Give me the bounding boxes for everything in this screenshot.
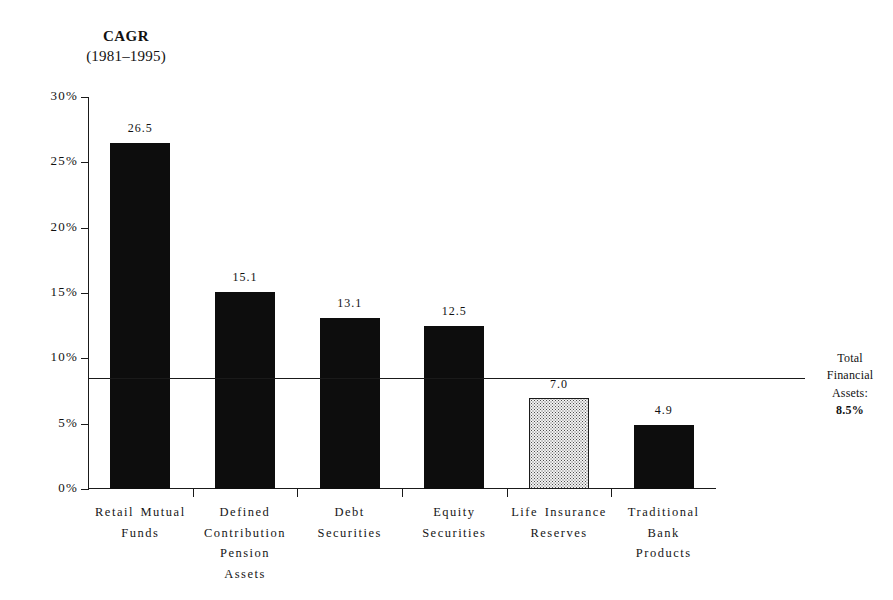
y-axis-tick-label: 20% xyxy=(51,219,78,235)
bar-value-label: 12.5 xyxy=(442,304,467,319)
y-axis-tick-label: 10% xyxy=(51,349,78,365)
reference-annotation-value: 8.5% xyxy=(812,402,888,419)
y-axis-tick-mark xyxy=(81,97,89,98)
bar-6: 4.9 xyxy=(634,425,694,489)
category-label-line: Reserves xyxy=(499,523,620,544)
bar-1: 26.5 xyxy=(110,143,170,489)
y-axis-tick-mark xyxy=(81,293,89,294)
x-axis-tick-mark xyxy=(297,489,298,497)
reference-annotation-line: Total xyxy=(812,350,888,367)
x-axis-tick-mark xyxy=(507,489,508,497)
category-label-line: Pension xyxy=(185,543,306,564)
bar-3: 13.1 xyxy=(320,318,380,489)
category-label-line: Defined xyxy=(185,502,306,523)
y-axis-tick-mark xyxy=(81,162,89,163)
bar-value-label: 13.1 xyxy=(337,296,362,311)
reference-annotation-line: Financial xyxy=(812,367,888,384)
y-axis-tick-label: 25% xyxy=(51,153,78,169)
reference-line-annotation: TotalFinancialAssets:8.5% xyxy=(812,350,888,420)
y-axis-tick-mark xyxy=(81,489,89,490)
plot-area: 0%5%10%15%20%25%30% 26.515.113.112.57.04… xyxy=(88,97,716,489)
bar-value-label: 15.1 xyxy=(233,270,258,285)
y-axis-tick-label: 15% xyxy=(51,284,78,300)
cagr-bar-chart: CAGR (1981–1995) 0%5%10%15%20%25%30% 26.… xyxy=(0,0,893,600)
y-axis-tick-mark xyxy=(81,424,89,425)
category-label-1: Retail MutualFunds xyxy=(80,502,201,543)
category-label-line: Bank xyxy=(603,523,724,544)
category-label-3: DebtSecurities xyxy=(289,502,410,543)
chart-title-block: CAGR (1981–1995) xyxy=(56,26,196,67)
category-label-5: Life InsuranceReserves xyxy=(499,502,620,543)
category-label-line: Assets xyxy=(185,564,306,585)
reference-line xyxy=(88,378,805,379)
bar-value-label: 4.9 xyxy=(655,403,673,418)
y-axis-tick-mark xyxy=(81,228,89,229)
category-label-line: Retail Mutual xyxy=(80,502,201,523)
category-label-line: Equity xyxy=(394,502,515,523)
category-label-line: Traditional xyxy=(603,502,724,523)
bar-value-label: 26.5 xyxy=(128,121,153,136)
category-label-2: DefinedContributionPensionAssets xyxy=(185,502,306,585)
y-axis-tick-label: 5% xyxy=(58,415,78,431)
category-label-line: Funds xyxy=(80,523,201,544)
x-axis-tick-mark xyxy=(402,489,403,497)
bar-5: 7.0 xyxy=(529,398,589,489)
reference-annotation-line: Assets: xyxy=(812,385,888,402)
category-label-4: EquitySecurities xyxy=(394,502,515,543)
category-label-line: Debt xyxy=(289,502,410,523)
chart-subtitle: (1981–1995) xyxy=(56,46,196,66)
y-axis-tick-label: 0% xyxy=(58,480,78,496)
category-label-line: Contribution xyxy=(185,523,306,544)
bar-4: 12.5 xyxy=(424,326,484,489)
x-axis-tick-mark xyxy=(611,489,612,497)
category-label-line: Life Insurance xyxy=(499,502,620,523)
category-label-line: Securities xyxy=(289,523,410,544)
bar-value-label: 7.0 xyxy=(550,377,568,392)
y-axis-tick-label: 30% xyxy=(51,88,78,104)
page-title: CAGR xyxy=(56,26,196,46)
category-label-line: Products xyxy=(603,543,724,564)
x-axis-tick-mark xyxy=(193,489,194,497)
bar-2: 15.1 xyxy=(215,292,275,489)
category-label-6: TraditionalBankProducts xyxy=(603,502,724,564)
y-axis-tick-mark xyxy=(81,358,89,359)
category-label-line: Securities xyxy=(394,523,515,544)
